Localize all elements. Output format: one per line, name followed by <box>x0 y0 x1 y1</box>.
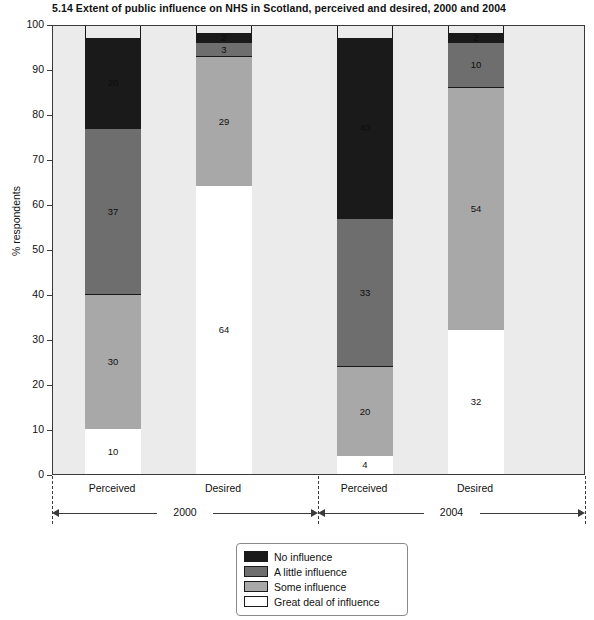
bar-segment[interactable]: 20 <box>337 366 393 456</box>
arrow-right-icon <box>578 509 585 517</box>
arrow-left-icon <box>52 509 59 517</box>
bar-segment-value: 54 <box>471 204 482 214</box>
legend-swatch <box>244 566 268 577</box>
bar-segment[interactable]: 32 <box>448 330 504 474</box>
bar-segment-value: 40 <box>360 123 371 133</box>
bar-segment-value: 20 <box>108 78 119 88</box>
y-axis-tick-label: 40 <box>32 288 44 301</box>
bar-segment[interactable]: 2 <box>448 33 504 42</box>
legend-item[interactable]: Great deal of influence <box>244 594 400 609</box>
bar-segment[interactable]: 20 <box>85 38 141 128</box>
x-axis-category-label: Desired <box>420 482 530 494</box>
bar-segment[interactable]: 30 <box>85 294 141 429</box>
bar-2004-perceived[interactable]: 4203340 <box>337 26 393 474</box>
bar-segment-value: 33 <box>360 288 371 298</box>
legend-item[interactable]: No influence <box>244 549 400 564</box>
bar-2000-desired[interactable]: 642932 <box>196 26 252 474</box>
y-axis-title: % respondents <box>10 161 22 281</box>
legend: No influenceA little influenceSome influ… <box>236 543 408 616</box>
y-axis-tick-label: 70 <box>32 153 44 166</box>
bar-segment-value: 20 <box>360 407 371 417</box>
bar-segment-value: 2 <box>221 33 226 43</box>
bar-segment[interactable]: 40 <box>337 38 393 218</box>
bar-segment[interactable]: 29 <box>196 56 252 187</box>
bar-segment-value: 30 <box>108 357 119 367</box>
arrow-left-icon <box>318 509 325 517</box>
y-axis-tick-label: 80 <box>32 108 44 121</box>
x-axis: PerceivedDesiredPerceivedDesired20002004 <box>0 476 594 532</box>
bar-segment-value: 3 <box>221 45 226 55</box>
y-axis-tick-label: 30 <box>32 333 44 346</box>
bar-segment[interactable]: 3 <box>196 42 252 56</box>
legend-label: Great deal of influence <box>274 596 380 608</box>
bar-segment-value: 2 <box>473 33 478 43</box>
bar-segment[interactable]: 4 <box>337 456 393 474</box>
bar-segment-value: 37 <box>108 207 119 217</box>
bar-2000-perceived[interactable]: 10303720 <box>85 26 141 474</box>
bar-segment-value: 32 <box>471 397 482 407</box>
y-axis-tick-label: 10 <box>32 423 44 436</box>
legend-swatch <box>244 581 268 592</box>
legend-item[interactable]: Some influence <box>244 579 400 594</box>
group-bracket-2000: 2000 <box>52 508 318 518</box>
legend-label: No influence <box>274 551 332 563</box>
bar-segment[interactable]: 2 <box>196 33 252 42</box>
bar-segment-value: 10 <box>108 447 119 457</box>
y-axis-tick-label: 20 <box>32 378 44 391</box>
x-axis-category-label: Perceived <box>309 482 419 494</box>
bar-segment[interactable]: 10 <box>85 429 141 474</box>
bar-segment-value: 10 <box>471 60 482 70</box>
y-axis-tick-label: 100 <box>26 18 44 31</box>
y-axis-tick-label: 60 <box>32 198 44 211</box>
arrow-right-icon <box>311 509 318 517</box>
bar-segment[interactable]: 64 <box>196 186 252 474</box>
bar-2004-desired[interactable]: 3254102 <box>448 26 504 474</box>
legend-label: Some influence <box>274 581 346 593</box>
bar-segment-value: 64 <box>219 325 230 335</box>
legend-swatch <box>244 551 268 562</box>
legend-swatch <box>244 596 268 607</box>
group-label: 2004 <box>424 506 480 518</box>
legend-label: A little influence <box>274 566 347 578</box>
x-axis-category-label: Desired <box>168 482 278 494</box>
legend-item[interactable]: A little influence <box>244 564 400 579</box>
bar-segment-value: 29 <box>219 117 230 127</box>
group-bracket-2004: 2004 <box>318 508 585 518</box>
bar-segment-value: 4 <box>362 460 367 470</box>
bar-segment[interactable]: 33 <box>337 218 393 367</box>
bar-segment[interactable]: 37 <box>85 128 141 295</box>
group-separator <box>585 476 586 524</box>
y-axis-tick-label: 50 <box>32 243 44 256</box>
y-axis: % respondents 1009080706050403020100 <box>0 25 52 475</box>
bar-segment[interactable]: 10 <box>448 42 504 87</box>
x-axis-category-label: Perceived <box>57 482 167 494</box>
group-label: 2000 <box>157 506 213 518</box>
plot-area: 1030372064293242033403254102 <box>52 25 585 475</box>
y-axis-tick-label: 90 <box>32 63 44 76</box>
bar-segment[interactable]: 54 <box>448 87 504 330</box>
page-title: 5.14 Extent of public influence on NHS i… <box>52 2 506 14</box>
